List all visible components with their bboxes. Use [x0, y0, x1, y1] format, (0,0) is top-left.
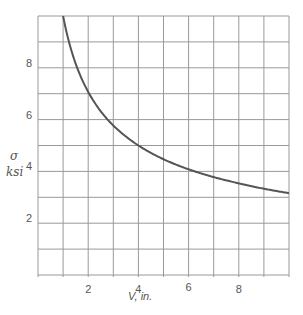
y-tick-labels: 2468 [26, 57, 32, 224]
x-tick-label: 6 [186, 281, 192, 293]
y-axis-symbol: σ [10, 149, 19, 163]
y-tick-label: 6 [26, 109, 32, 121]
x-tick-labels: 2468 [85, 281, 242, 295]
y-tick-label: 2 [26, 212, 32, 224]
x-axis-label: V, in. [128, 290, 152, 302]
y-axis-unit: ksi [6, 165, 23, 179]
chart: 2468 2468 σ ksi V, in. [0, 0, 303, 315]
x-tick-label: 2 [85, 283, 91, 295]
grid [38, 16, 289, 277]
data-curve [63, 16, 289, 193]
x-tick-label: 8 [236, 283, 242, 295]
y-tick-label: 4 [26, 160, 32, 172]
y-tick-label: 8 [26, 57, 32, 69]
